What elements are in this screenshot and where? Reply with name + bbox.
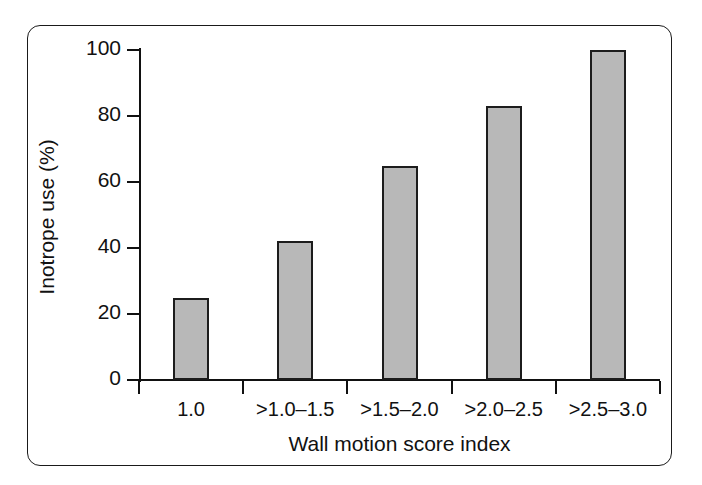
- bar-4: [486, 106, 522, 380]
- x-axis-tick-label: >2.0–2.5: [464, 398, 542, 421]
- x-axis-tick: [659, 381, 661, 394]
- x-axis-tick: [138, 381, 140, 394]
- x-axis-tick: [555, 381, 557, 394]
- x-axis-tick-label: >2.5–3.0: [569, 398, 647, 421]
- y-axis-tick-label: 60: [61, 168, 121, 192]
- y-axis-tick: [127, 181, 139, 183]
- x-axis-tick-label: 1.0: [177, 398, 205, 421]
- y-axis-tick-label: 40: [61, 234, 121, 258]
- x-axis-tick: [451, 381, 453, 394]
- x-axis-tick-label: >1.5–2.0: [360, 398, 438, 421]
- y-axis-title: Inotrope use (%): [35, 107, 59, 327]
- x-axis-tick: [346, 381, 348, 394]
- y-axis-tick-label: 0: [61, 366, 121, 390]
- x-axis-tick: [242, 381, 244, 394]
- x-axis-title: Wall motion score index: [139, 432, 660, 456]
- bar-5: [590, 50, 626, 380]
- y-axis-tick: [127, 313, 139, 315]
- y-axis-tick-label: 20: [61, 300, 121, 324]
- y-axis-tick-label: 100: [61, 36, 121, 60]
- bar-1: [173, 298, 209, 381]
- y-axis-tick-label: 80: [61, 102, 121, 126]
- plot-area: 020406080100 1.0>1.0–1.5>1.5–2.0>2.0–2.5…: [0, 0, 702, 485]
- y-axis-tick: [127, 247, 139, 249]
- y-axis-tick: [127, 49, 139, 51]
- figure-root: 020406080100 1.0>1.0–1.5>1.5–2.0>2.0–2.5…: [0, 0, 702, 485]
- x-axis-tick-label: >1.0–1.5: [256, 398, 334, 421]
- bar-3: [382, 166, 418, 381]
- y-axis-line: [139, 48, 141, 382]
- y-axis-tick: [127, 115, 139, 117]
- bar-2: [277, 241, 313, 380]
